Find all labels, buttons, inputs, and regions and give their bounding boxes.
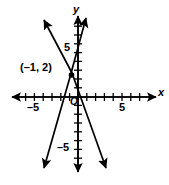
intersection-point-dot	[69, 72, 75, 78]
x-axis-label: x	[158, 87, 164, 98]
intersection-point-label: (–1, 2)	[20, 62, 52, 73]
origin-label: O	[70, 97, 78, 107]
y-axis-label: y	[73, 4, 79, 15]
x-axis	[12, 93, 156, 101]
graph-canvas	[0, 0, 169, 185]
line-negative-slope	[44, 20, 106, 168]
coordinate-plane-figure: y x O 5 –5 –5 5 (–1, 2)	[0, 0, 169, 185]
line-negative-arrow-downright	[72, 73, 106, 168]
x-tick-label-minus5: –5	[27, 102, 39, 113]
y-tick-label-5: 5	[64, 42, 70, 53]
line-positive-arrow-downleft	[44, 77, 70, 168]
x-tick-label-5: 5	[119, 102, 125, 113]
y-tick-label-minus5: –5	[57, 142, 69, 153]
